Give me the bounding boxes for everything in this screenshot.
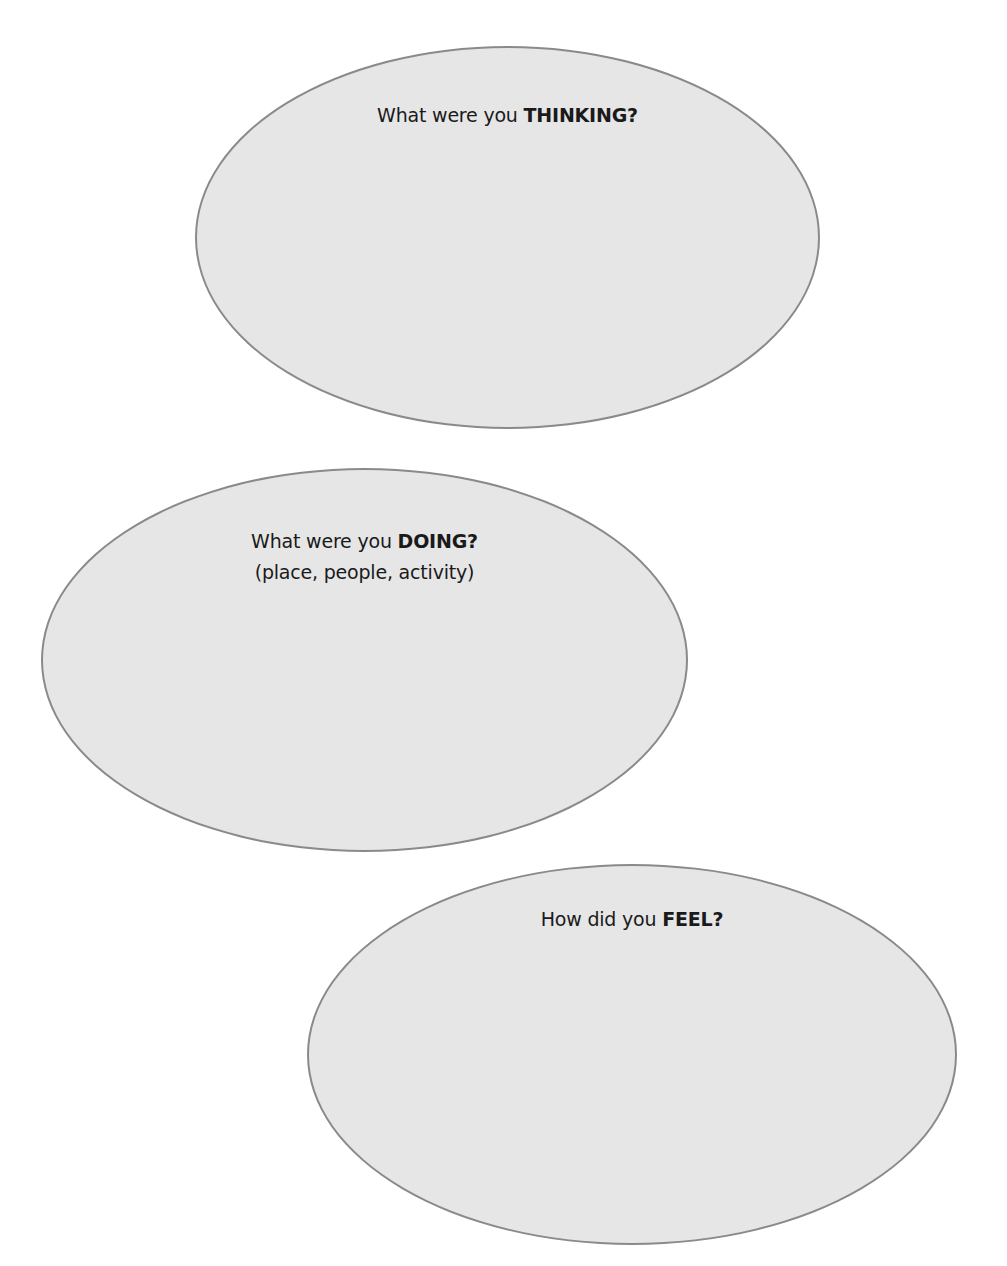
doing-prompt-emphasis: DOING (398, 530, 468, 552)
doing-bubble[interactable]: What were you DOING? (place, people, act… (41, 468, 688, 852)
doing-prompt-subtitle: (place, people, activity) (43, 557, 686, 588)
thinking-prompt-prefix: What were you (377, 104, 523, 126)
doing-prompt-suffix: ? (467, 530, 478, 552)
doing-prompt-prefix: What were you (251, 530, 397, 552)
feel-prompt-prefix: How did you (541, 908, 662, 930)
doing-prompt: What were you DOING? (place, people, act… (43, 526, 686, 588)
feel-prompt: How did you FEEL? (309, 904, 955, 935)
thinking-prompt-suffix: ? (627, 104, 638, 126)
thinking-prompt-emphasis: THINKING (524, 104, 628, 126)
feel-bubble[interactable]: How did you FEEL? (307, 864, 957, 1245)
thinking-prompt: What were you THINKING? (197, 100, 818, 131)
feel-prompt-emphasis: FEEL (662, 908, 712, 930)
feel-prompt-suffix: ? (712, 908, 723, 930)
thinking-bubble[interactable]: What were you THINKING? (195, 46, 820, 429)
